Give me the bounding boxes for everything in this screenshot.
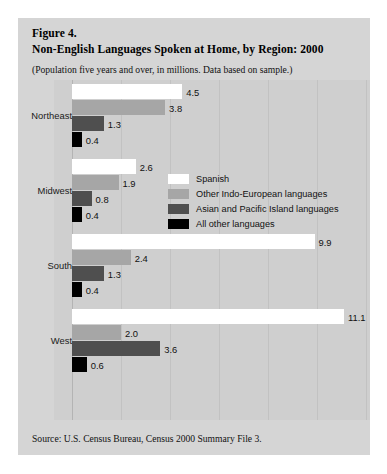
bar-value-label: 3.6 [160,343,177,354]
legend-swatch-icon [168,204,189,214]
figure-title: Non-English Languages Spoken at Home, by… [32,43,324,55]
legend-swatch-icon [168,174,189,184]
bar-group: West11.12.03.60.6 [18,309,370,372]
bar-row: 4.5 [72,84,366,99]
bar-row: 2.0 [72,325,366,340]
region-label-northeast: Northeast [31,110,72,121]
bar-value-label: 2.4 [131,252,148,263]
bar-row: 11.1 [72,309,366,324]
bar-value-label: 1.9 [119,177,136,188]
bar-west-3 [72,357,87,372]
legend-item: Other Indo-European languages [168,188,368,200]
legend-label: Other Indo-European languages [196,188,327,200]
chart-plot-area: Northeast4.53.81.30.4Midwest2.61.90.80.4… [18,80,370,420]
legend-label: All other languages [196,218,275,230]
bar-south-1 [72,250,131,265]
figure-panel: Figure 4. Non-English Languages Spoken a… [18,18,370,455]
bar-value-label: 2.6 [136,161,153,172]
legend-item: Spanish [168,173,368,185]
bar-value-label: 2.0 [121,327,138,338]
chart-legend: SpanishOther Indo-European languagesAsia… [168,173,368,233]
bar-northeast-0 [72,84,182,99]
bar-value-label: 0.8 [92,193,109,204]
bar-value-label: 0.6 [87,359,104,370]
bar-south-0 [72,234,315,249]
bar-row: 3.6 [72,341,366,356]
bar-value-label: 0.4 [82,209,99,220]
bar-value-label: 1.3 [104,268,121,279]
bar-northeast-3 [72,132,82,147]
region-label-midwest: Midwest [38,185,72,196]
bar-northeast-2 [72,116,104,131]
legend-label: Spanish [196,173,229,185]
region-label-west: West [51,335,72,346]
bar-value-label: 11.1 [344,311,366,322]
bar-row: 0.4 [72,282,366,297]
bar-row: 9.9 [72,234,366,249]
bar-row: 0.4 [72,132,366,147]
bar-value-label: 0.4 [82,134,99,145]
legend-item: Asian and Pacific Island languages [168,203,368,215]
bar-west-1 [72,325,121,340]
bar-value-label: 9.9 [315,236,332,247]
bar-row: 2.4 [72,250,366,265]
bar-midwest-3 [72,207,82,222]
bar-west-2 [72,341,160,356]
bar-value-label: 0.4 [82,284,99,295]
legend-swatch-icon [168,219,189,229]
figure-label: Figure 4. [32,27,77,39]
region-label-south: South [48,260,73,271]
bar-group: South9.92.41.30.4 [18,234,370,297]
bar-south-2 [72,266,104,281]
figure-subtitle: (Population five years and over, in mill… [32,64,292,75]
bar-midwest-0 [72,159,136,174]
bar-group: Northeast4.53.81.30.4 [18,84,370,147]
figure-source: Source: U.S. Census Bureau, Census 2000 … [32,433,262,444]
legend-swatch-icon [168,189,189,199]
bar-south-3 [72,282,82,297]
bar-west-0 [72,309,344,324]
bar-row: 1.3 [72,116,366,131]
bar-row: 3.8 [72,100,366,115]
bar-row: 2.6 [72,159,366,174]
bar-row: 1.3 [72,266,366,281]
bar-northeast-1 [72,100,165,115]
bar-row: 0.6 [72,357,366,372]
bar-value-label: 3.8 [165,102,182,113]
legend-label: Asian and Pacific Island languages [196,203,339,215]
bar-midwest-1 [72,175,119,190]
bar-midwest-2 [72,191,92,206]
bar-value-label: 4.5 [182,86,199,97]
bar-value-label: 1.3 [104,118,121,129]
legend-item: All other languages [168,218,368,230]
